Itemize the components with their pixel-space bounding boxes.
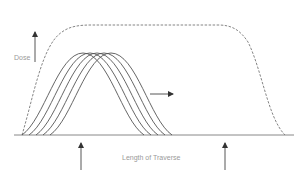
y-axis-label: Dose xyxy=(14,54,30,61)
dose-profile-curves xyxy=(22,53,172,135)
x-axis-label: Length of Traverse xyxy=(122,154,180,161)
dose-traverse-diagram xyxy=(0,0,307,174)
dose-envelope-dashed xyxy=(22,25,285,135)
